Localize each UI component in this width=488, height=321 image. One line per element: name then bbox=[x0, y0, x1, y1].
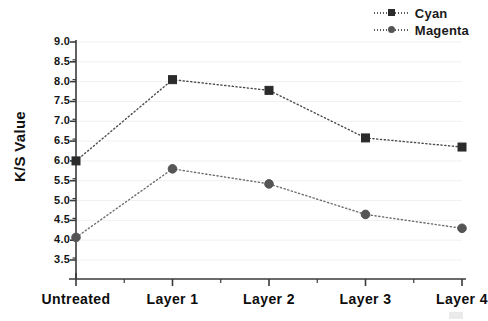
x-tick-label-layer-2: Layer 2 bbox=[243, 291, 295, 307]
data-point-cyan-3[interactable] bbox=[362, 134, 370, 142]
data-point-magenta-4[interactable] bbox=[458, 224, 467, 233]
data-point-cyan-2[interactable] bbox=[265, 86, 273, 94]
data-point-magenta-2[interactable] bbox=[265, 180, 274, 189]
data-point-magenta-1[interactable] bbox=[168, 165, 177, 174]
scan-artifact bbox=[449, 312, 463, 319]
x-tick-label-untreated: Untreated bbox=[42, 291, 111, 307]
x-tick-label-layer-4: Layer 4 bbox=[436, 291, 488, 307]
x-tick-label-layer-1: Layer 1 bbox=[147, 291, 199, 307]
data-point-cyan-4[interactable] bbox=[458, 143, 466, 151]
data-point-magenta-0[interactable] bbox=[72, 233, 81, 242]
x-tick-label-layer-3: Layer 3 bbox=[340, 291, 392, 307]
data-point-cyan-1[interactable] bbox=[169, 76, 177, 84]
data-point-magenta-3[interactable] bbox=[361, 210, 370, 219]
data-point-cyan-0[interactable] bbox=[72, 157, 80, 165]
